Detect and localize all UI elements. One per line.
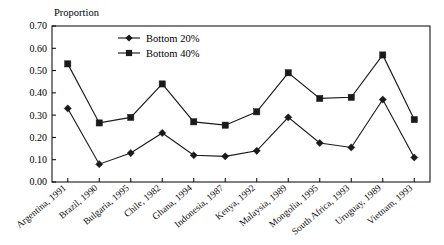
data-point-square (411, 117, 417, 123)
y-tick-label: 0.10 (30, 154, 48, 165)
plot-frame (52, 26, 430, 182)
data-point-square (191, 119, 197, 125)
data-point-diamond (411, 154, 418, 161)
y-tick-label: 0.70 (30, 20, 48, 31)
y-tick-label: 0.40 (30, 87, 48, 98)
y-tick-label: 0.50 (30, 65, 48, 76)
data-point-square (254, 109, 260, 115)
data-point-diamond (96, 161, 103, 168)
data-point-diamond (64, 105, 71, 112)
data-point-square (222, 122, 228, 128)
data-point-square (317, 95, 323, 101)
data-point-diamond (190, 152, 197, 159)
chart-legend: Bottom 20%Bottom 40% (118, 33, 200, 59)
data-point-diamond (348, 144, 355, 151)
x-tick-label: South Africa, 1993 (290, 183, 352, 237)
chart-container: Proportion0.000.100.200.300.400.500.600.… (0, 0, 444, 245)
legend-label: Bottom 40% (146, 48, 200, 59)
data-point-square (96, 120, 102, 126)
y-tick-label: 0.60 (30, 43, 48, 54)
legend-marker-square (126, 50, 132, 56)
data-point-square (380, 52, 386, 58)
y-tick-label: 0.20 (30, 132, 48, 143)
data-point-diamond (379, 96, 386, 103)
x-tick-label: Argentina, 1991 (14, 183, 68, 230)
legend-label: Bottom 20% (146, 33, 200, 44)
data-point-square (65, 61, 71, 67)
series-line (68, 100, 415, 165)
data-point-square (128, 114, 134, 120)
data-point-diamond (127, 149, 134, 156)
legend-marker-diamond (125, 34, 132, 41)
data-point-diamond (222, 153, 229, 160)
series-line (68, 55, 415, 125)
data-point-square (285, 70, 291, 76)
line-chart: Proportion0.000.100.200.300.400.500.600.… (0, 0, 444, 245)
data-point-square (159, 81, 165, 87)
data-point-square (348, 94, 354, 100)
series-1 (64, 96, 418, 168)
y-tick-label: 0.30 (30, 110, 48, 121)
y-axis-title: Proportion (54, 7, 100, 18)
data-point-diamond (159, 129, 166, 136)
series-2 (65, 52, 418, 128)
x-axis: Argentina, 1991Brazil, 1990Bulgaria, 199… (14, 178, 414, 237)
y-tick-label: 0.00 (30, 176, 48, 187)
